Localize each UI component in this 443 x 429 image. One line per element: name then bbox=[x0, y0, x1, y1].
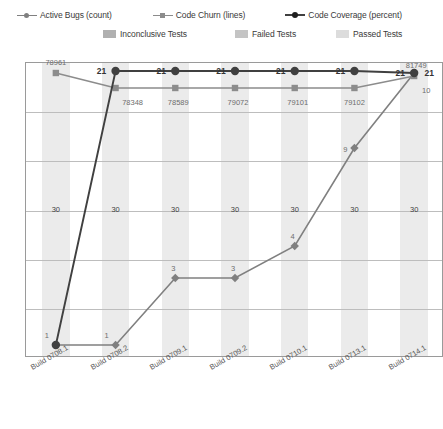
legend-item-passed-tests[interactable]: Passed Tests bbox=[336, 29, 402, 39]
legend-label-code-churn: Code Churn (lines) bbox=[176, 10, 246, 20]
legend-line-series: Active Bugs (count) Code Churn (lines) C… bbox=[0, 10, 443, 20]
data-label: 79101 bbox=[287, 98, 308, 107]
legend-label-passed-tests: Passed Tests bbox=[353, 29, 402, 39]
data-label: 21 bbox=[157, 66, 166, 76]
data-point-marker bbox=[232, 85, 238, 91]
data-label: 30 bbox=[410, 205, 418, 214]
code-churn-marker-icon bbox=[153, 11, 173, 20]
legend-label-code-coverage: Code Coverage (percent) bbox=[308, 10, 402, 20]
data-point-marker bbox=[231, 274, 239, 282]
data-point-marker bbox=[231, 67, 239, 75]
data-label: 78589 bbox=[168, 98, 189, 107]
data-label: 3 bbox=[171, 264, 175, 273]
data-label: 21 bbox=[336, 66, 345, 76]
legend-item-active-bugs[interactable]: Active Bugs (count) bbox=[17, 10, 112, 20]
build-metrics-chart: Active Bugs (count) Code Churn (lines) C… bbox=[0, 0, 443, 429]
legend-label-inconclusive-tests: Inconclusive Tests bbox=[120, 29, 187, 39]
data-label: 30 bbox=[171, 205, 179, 214]
data-point-marker bbox=[350, 67, 358, 75]
data-label: 4 bbox=[291, 232, 295, 241]
data-label: 81749 bbox=[406, 61, 427, 70]
data-label: 30 bbox=[350, 205, 358, 214]
active-bugs-marker-icon bbox=[17, 11, 37, 20]
data-point-marker bbox=[410, 69, 418, 77]
legend-label-active-bugs: Active Bugs (count) bbox=[40, 10, 112, 20]
data-label: 1 bbox=[104, 331, 108, 340]
legend-item-failed-tests[interactable]: Failed Tests bbox=[235, 29, 296, 39]
legend-test-series: Inconclusive Tests Failed Tests Passed T… bbox=[0, 29, 443, 39]
passed-tests-swatch-icon bbox=[336, 30, 349, 38]
data-label: 78348 bbox=[122, 98, 143, 107]
data-label: 21 bbox=[424, 68, 433, 78]
data-point-marker bbox=[172, 85, 178, 91]
data-point-marker bbox=[53, 70, 59, 76]
data-point-marker bbox=[171, 67, 179, 75]
legend-item-code-churn[interactable]: Code Churn (lines) bbox=[153, 10, 246, 20]
data-label: 1 bbox=[45, 331, 49, 340]
data-point-marker bbox=[112, 85, 118, 91]
data-label: 30 bbox=[291, 205, 299, 214]
data-label: 79102 bbox=[344, 98, 365, 107]
data-label: 78961 bbox=[45, 58, 66, 67]
legend-item-inconclusive-tests[interactable]: Inconclusive Tests bbox=[103, 29, 187, 39]
data-point-marker bbox=[292, 85, 298, 91]
data-point-marker bbox=[351, 85, 357, 91]
data-point-marker bbox=[291, 242, 299, 250]
data-label: 10 bbox=[422, 86, 430, 95]
data-label: 21 bbox=[97, 66, 106, 76]
failed-tests-swatch-icon bbox=[235, 30, 248, 38]
inconclusive-tests-swatch-icon bbox=[103, 30, 116, 38]
code-coverage-marker-icon bbox=[285, 11, 305, 20]
legend-item-code-coverage[interactable]: Code Coverage (percent) bbox=[285, 10, 402, 20]
legend-label-failed-tests: Failed Tests bbox=[252, 29, 296, 39]
data-label: 21 bbox=[276, 66, 285, 76]
data-label: 3 bbox=[231, 264, 235, 273]
data-label: 30 bbox=[52, 205, 60, 214]
data-label: 30 bbox=[111, 205, 119, 214]
data-label: 79072 bbox=[228, 98, 249, 107]
data-label: 21 bbox=[216, 66, 225, 76]
data-label: 9 bbox=[343, 145, 347, 154]
data-point-marker bbox=[291, 67, 299, 75]
data-point-marker bbox=[111, 67, 119, 75]
data-label: 30 bbox=[231, 205, 239, 214]
data-label: 21 bbox=[395, 68, 404, 78]
plot-area: 2121212121212178961783487858979072791017… bbox=[25, 62, 443, 357]
